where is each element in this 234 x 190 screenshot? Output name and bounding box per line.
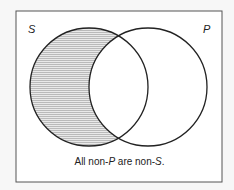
caption-var-s: S: [155, 156, 162, 167]
caption-text: are non-: [115, 156, 155, 167]
caption: All non-P are non-S.: [16, 156, 223, 167]
caption-text: All non-: [74, 156, 108, 167]
label-s: S: [28, 23, 35, 35]
caption-text: .: [162, 156, 165, 167]
label-p: P: [203, 23, 210, 35]
